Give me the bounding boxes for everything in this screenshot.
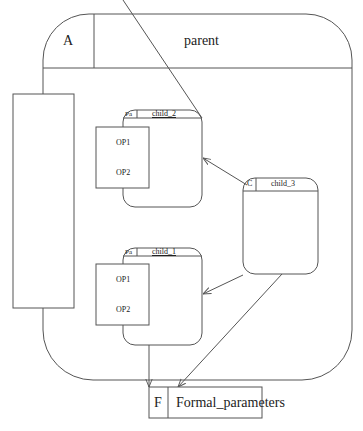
- child-2-op1: OP1: [116, 139, 130, 147]
- formal-tag: F: [154, 396, 162, 410]
- parent-name: parent: [184, 34, 219, 48]
- edge-child3-to-child1: [203, 275, 243, 294]
- child-3-name: child_3: [271, 180, 295, 188]
- child-2-name: child_2: [152, 110, 176, 118]
- parent-tag: A: [63, 34, 73, 48]
- formal-name: Formal_parameters: [176, 396, 285, 410]
- child-2-ops-rect: [96, 127, 149, 188]
- diagram-lines: [0, 0, 363, 431]
- diagram-canvas: A parent Pa child_2 OP1 OP2 Pa child_1 O…: [0, 0, 363, 431]
- child-2-op2: OP2: [116, 169, 130, 177]
- child-1-tag: Pa: [125, 249, 132, 256]
- child-3-tag: C: [247, 180, 252, 188]
- child-3-box: [243, 178, 318, 274]
- edge-child3-to-child2: [203, 158, 247, 185]
- edge-child3-to-formal: [178, 274, 282, 387]
- child-1-name: child_1: [152, 248, 176, 256]
- left-port-rect: [13, 94, 74, 308]
- parent-box: [43, 14, 352, 380]
- child-1-ops-rect: [96, 264, 149, 325]
- child-1-op1: OP1: [116, 276, 130, 284]
- child-2-tag: Pa: [125, 111, 132, 118]
- child-1-op2: OP2: [116, 306, 130, 314]
